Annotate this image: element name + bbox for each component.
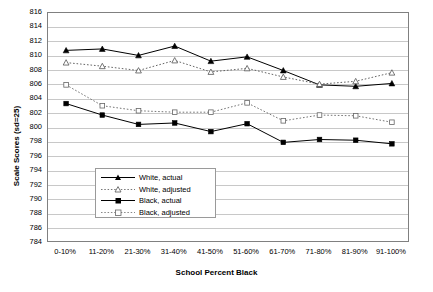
x-axis-tick-label: 11-20% (89, 248, 114, 256)
data-point-marker (353, 138, 358, 143)
y-axis-tick-label: 808 (8, 66, 42, 74)
y-axis-tick-label: 786 (8, 224, 42, 232)
legend-swatch-black-adjusted (100, 207, 136, 218)
x-axis-title: School Percent Black (0, 268, 433, 277)
chart-container: Scale Scores (sd=25) 8168148128108088068… (0, 0, 433, 292)
data-point-marker (245, 121, 250, 126)
data-point-marker (390, 120, 395, 125)
data-point-marker (208, 69, 214, 74)
data-point-marker (390, 142, 395, 147)
data-point-marker (317, 137, 322, 142)
x-axis-tick-label: 81-90% (342, 248, 368, 256)
legend-label: White, actual (139, 173, 182, 182)
x-axis-tick-label: 61-70% (269, 248, 295, 256)
legend-item-black-adjusted: Black, adjusted (100, 207, 211, 219)
series-line (66, 104, 392, 144)
legend-swatch-black-actual (100, 195, 136, 206)
data-point-marker (64, 83, 69, 88)
y-axis-tick-label: 790 (8, 195, 42, 203)
y-axis-tick-label: 784 (8, 238, 42, 246)
data-point-marker (63, 60, 69, 65)
data-point-marker (136, 108, 141, 113)
series-white-adjusted (63, 58, 395, 87)
data-point-marker (172, 58, 178, 63)
legend-label: White, adjusted (139, 185, 191, 194)
data-point-marker (281, 140, 286, 145)
data-point-marker (245, 101, 250, 106)
data-point-marker (317, 113, 322, 118)
y-axis-tick-label: 788 (8, 209, 42, 217)
series-black-actual (64, 101, 394, 146)
x-axis-tick-label: 0-10% (54, 248, 76, 256)
data-point-marker (172, 110, 177, 115)
data-point-marker (99, 63, 105, 68)
legend-swatch-white-actual (100, 172, 136, 183)
chart-legend: White, actual White, adjusted Black, act… (95, 168, 216, 218)
legend-item-white-actual: White, actual (100, 172, 211, 184)
data-point-marker (136, 122, 141, 127)
legend-label: Black, adjusted (139, 208, 190, 217)
series-line (66, 60, 392, 84)
y-axis-tick-label: 806 (8, 80, 42, 88)
data-point-marker (100, 113, 105, 118)
data-point-marker (353, 113, 358, 118)
x-axis-tick-label: 91-100% (376, 248, 406, 256)
data-point-marker (172, 121, 177, 126)
x-axis-tick-label: 21-30% (125, 248, 151, 256)
series-line (66, 46, 392, 86)
data-point-marker (209, 110, 214, 115)
data-point-marker (280, 68, 286, 73)
y-axis-tick-label: 814 (8, 22, 42, 30)
x-axis-tick-label: 71-80% (306, 248, 332, 256)
data-point-marker (280, 74, 286, 79)
x-axis-tick-label: 51-60% (233, 248, 259, 256)
y-axis-tick-label: 812 (8, 37, 42, 45)
x-axis-tick-label: 41-50% (197, 248, 223, 256)
y-axis-title: Scale Scores (sd=25) (12, 106, 21, 186)
data-point-marker (281, 119, 286, 124)
data-point-marker (389, 70, 395, 75)
legend-item-black-actual: Black, actual (100, 195, 211, 207)
series-line (66, 85, 392, 122)
y-axis-tick-label: 804 (8, 94, 42, 102)
data-point-marker (100, 103, 105, 108)
data-point-marker (353, 78, 359, 83)
legend-item-white-adjusted: White, adjusted (100, 184, 211, 196)
data-point-marker (64, 101, 69, 106)
legend-label: Black, actual (139, 196, 182, 205)
data-point-marker (172, 43, 178, 48)
x-axis-tick-label: 31-40% (161, 248, 187, 256)
y-axis-tick-label: 810 (8, 51, 42, 59)
legend-swatch-white-adjusted (100, 184, 136, 195)
y-axis-tick-label: 816 (8, 8, 42, 16)
data-point-marker (209, 129, 214, 134)
